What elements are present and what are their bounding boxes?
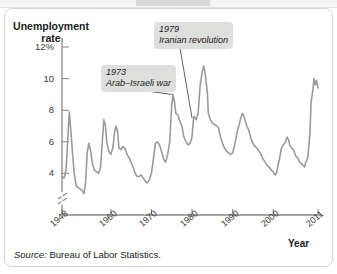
source-note: Source: Bureau of Labor Statistics. [14,249,161,260]
x-axis-title: Year [288,238,309,249]
y-tick-label: 4 [20,167,54,178]
y-tick-label: 6 [20,136,54,147]
top-strip [0,0,337,8]
annotation-year: 1973 [106,67,171,78]
y-tick-label: 8 [20,104,54,115]
y-tick-label: 10 [20,73,54,84]
top-strip-tab [136,0,210,6]
annotation-event: Iranian revolution [159,35,228,46]
annotation-callout: 1973Arab–Israeli war [101,65,176,92]
source-text: Bureau of Labor Statistics. [47,249,161,260]
annotation-callout: 1979Iranian revolution [154,22,233,49]
y-tick-label: 12% [20,41,54,52]
figure-root: Unemployment rate Year 12%10864 19481960… [0,0,337,274]
source-label: Source: [14,249,47,260]
annotation-event: Arab–Israeli war [106,78,171,89]
annotation-year: 1979 [159,24,228,35]
